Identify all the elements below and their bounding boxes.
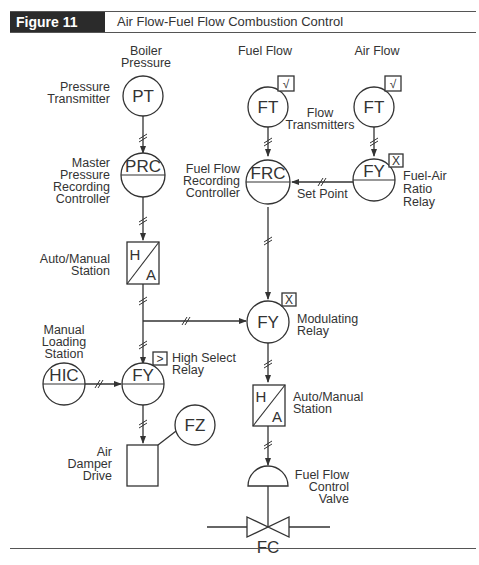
label-frc-3: Controller: [186, 186, 240, 200]
fy-high-tag: FY: [132, 366, 154, 385]
frc-tag: FRC: [251, 164, 286, 183]
label-damper-3: Drive: [83, 469, 112, 483]
multiply-icon: X: [392, 154, 400, 168]
label-valve-3: Valve: [319, 492, 349, 506]
hic-tag: HIC: [49, 366, 78, 385]
high-select-icon: >: [156, 352, 163, 366]
footer-divider: [10, 548, 476, 549]
label-set-point: Set Point: [297, 187, 348, 201]
label-master-prc-4: Controller: [56, 192, 110, 206]
valve-actuator: [248, 466, 288, 486]
fz-tag: FZ: [185, 416, 206, 435]
ft-air-tag: FT: [364, 98, 385, 117]
am2-hand-letter: H: [256, 388, 267, 405]
pt-tag: PT: [132, 87, 154, 106]
air-damper-drive-box: [127, 445, 158, 486]
label-am-station-1-2: Station: [71, 264, 110, 278]
control-diagram: PT PRC FT FT FRC FY FY FY HIC FZ FC √ √ …: [0, 0, 479, 565]
ft-fuel-tag: FT: [258, 98, 279, 117]
label-ratio-relay-3: Relay: [403, 195, 436, 209]
label-fuel-flow: Fuel Flow: [238, 44, 293, 58]
label-flow-transmitters-2: Transmitters: [286, 118, 355, 132]
multiply-icon: X: [285, 293, 293, 307]
label-ratio-relay-1: Fuel-Air: [403, 169, 447, 183]
fy-mod-tag: FY: [257, 313, 279, 332]
label-am-station-2-2: Station: [293, 402, 332, 416]
sqrt-icon: √: [390, 77, 397, 91]
sqrt-icon: √: [283, 77, 290, 91]
label-high-select-2: Relay: [172, 363, 205, 377]
label-modulating-relay-2: Relay: [297, 324, 330, 338]
am2-auto-letter: A: [272, 408, 282, 425]
label-pressure-transmitter-2: Transmitter: [47, 92, 110, 106]
prc-tag: PRC: [125, 157, 161, 176]
label-manual-loading-3: Station: [45, 347, 84, 361]
label-ratio-relay-2: Ratio: [403, 182, 432, 196]
fy-ratio-tag: FY: [363, 162, 385, 181]
am1-hand-letter: H: [130, 246, 141, 263]
am1-auto-letter: A: [146, 266, 156, 283]
label-air-flow: Air Flow: [354, 44, 400, 58]
label-boiler-pressure-2: Pressure: [121, 56, 171, 70]
